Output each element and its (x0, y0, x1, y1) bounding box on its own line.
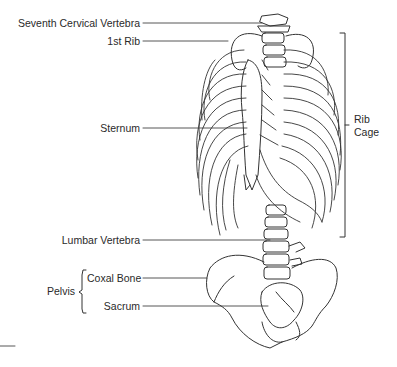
lumbar-spine (263, 205, 305, 279)
label-sacrum: Sacrum (0, 300, 140, 312)
left-ribs (197, 50, 248, 235)
label-seventh-cervical-vertebra: Seventh Cervical Vertebra (0, 17, 140, 29)
leader-lines (0, 23, 270, 346)
right-ribs (256, 50, 341, 228)
label-pelvis: Pelvis (47, 285, 75, 297)
thoracic-spine (262, 33, 286, 67)
label-rib-cage-line1: Rib (354, 113, 370, 125)
label-coxal-bone: Coxal Bone (87, 272, 141, 284)
label-rib-cage-line2: Cage (354, 126, 379, 138)
pelvis-shape (207, 255, 338, 348)
label-first-rib: 1st Rib (0, 35, 140, 47)
rib-cage-bracket (340, 33, 349, 237)
label-lumbar-vertebra: Lumbar Vertebra (0, 234, 140, 246)
label-sternum: Sternum (0, 122, 140, 134)
sternum-shape (241, 60, 262, 190)
cervical-vertebra (258, 14, 290, 32)
